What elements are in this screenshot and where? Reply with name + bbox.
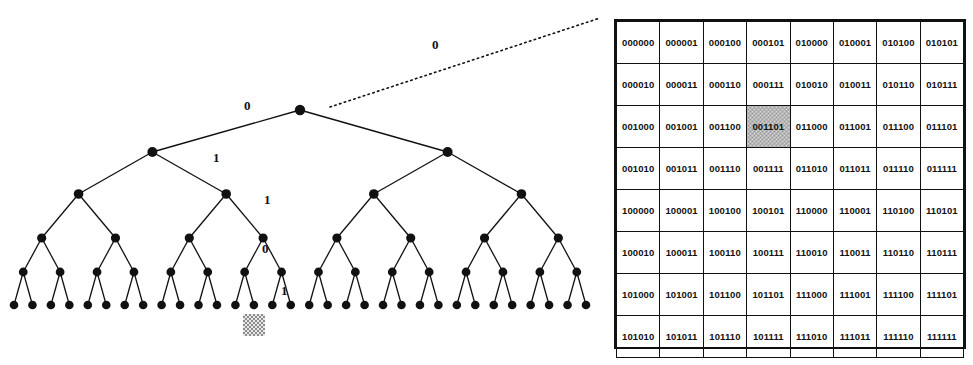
code-cell[interactable]: 001011 [660,148,703,190]
code-cell[interactable]: 101101 [747,274,790,316]
code-cell[interactable]: 011110 [877,148,920,190]
code-cell-highlighted[interactable]: 001101 [747,106,790,148]
tree-edge [485,238,503,272]
tree-internal-node [166,268,175,277]
tree-leaf-node [453,301,462,310]
code-cell[interactable]: 011011 [833,148,876,190]
tree-internal-node [369,189,379,199]
code-cell[interactable]: 101110 [703,316,746,358]
code-cell[interactable]: 111000 [790,274,833,316]
tree-edge [355,272,364,305]
code-cell[interactable]: 010010 [790,64,833,106]
tree-edge [457,272,466,305]
code-cell[interactable]: 000110 [703,64,746,106]
tree-edge [383,272,392,305]
code-cell[interactable]: 111110 [877,316,920,358]
code-cell[interactable]: 101001 [660,274,703,316]
tree-edge [134,272,143,305]
tree-internal-node [56,268,65,277]
code-cell[interactable]: 010001 [833,22,876,64]
code-cell[interactable]: 000000 [617,22,660,64]
code-cell[interactable]: 100111 [747,232,790,274]
code-cell[interactable]: 110010 [790,232,833,274]
tree-edge [374,194,411,238]
tree-edge [79,152,153,194]
code-cell[interactable]: 010011 [833,64,876,106]
code-cell[interactable]: 101011 [660,316,703,358]
code-cell[interactable]: 010110 [877,64,920,106]
code-cell[interactable]: 000100 [703,22,746,64]
tree-leaf-node [65,301,74,310]
code-cell[interactable]: 111100 [877,274,920,316]
code-cell[interactable]: 100000 [617,190,660,232]
code-cell[interactable]: 001110 [703,148,746,190]
tree-leaf-node [489,301,498,310]
code-cell[interactable]: 001111 [747,148,790,190]
code-cell[interactable]: 100101 [747,190,790,232]
tree-leaf-node [342,301,351,310]
code-cell[interactable]: 001001 [660,106,703,148]
tree-internal-node [221,189,231,199]
code-cell[interactable]: 000011 [660,64,703,106]
tree-edge [374,152,448,194]
tree-edge [540,272,549,305]
tree-edge [51,272,60,305]
tree-edge [337,238,355,272]
tree-internal-node [277,268,286,277]
code-cell[interactable]: 100110 [703,232,746,274]
tree-internal-node [314,268,323,277]
code-cell[interactable]: 101100 [703,274,746,316]
code-cell[interactable]: 100011 [660,232,703,274]
tree-edge [300,110,448,152]
tree-edge [171,272,180,305]
code-cell[interactable]: 110011 [833,232,876,274]
tree-node-group [10,105,591,310]
code-cell[interactable]: 000001 [660,22,703,64]
code-cell[interactable]: 010100 [877,22,920,64]
code-cell[interactable]: 111001 [833,274,876,316]
code-cell[interactable]: 110001 [833,190,876,232]
tree-leaf-node [360,301,369,310]
code-cell[interactable]: 000010 [617,64,660,106]
code-table-row: 0010100010110011100011110110100110110111… [617,148,964,190]
code-cell[interactable]: 010000 [790,22,833,64]
edge-label-bit-2: 1 [264,193,271,206]
code-cell[interactable]: 011101 [920,106,963,148]
code-cell[interactable]: 000111 [747,64,790,106]
code-table-row: 0000000000010001000001010100000100010101… [617,22,964,64]
code-cell[interactable]: 101111 [747,316,790,358]
code-cell[interactable]: 111010 [790,316,833,358]
code-cell[interactable]: 011111 [920,148,963,190]
code-cell[interactable]: 001010 [617,148,660,190]
tree-edge [23,272,32,305]
tree-leaf-node [120,301,129,310]
tree-edge [466,238,484,272]
code-cell[interactable]: 100100 [703,190,746,232]
code-cell[interactable]: 111111 [920,316,963,358]
code-cell[interactable]: 010101 [920,22,963,64]
code-cell[interactable]: 100010 [617,232,660,274]
code-cell[interactable]: 100001 [660,190,703,232]
code-cell[interactable]: 011001 [833,106,876,148]
tree-internal-node [332,233,341,242]
code-cell[interactable]: 101000 [617,274,660,316]
code-cell[interactable]: 011010 [790,148,833,190]
code-cell[interactable]: 110101 [920,190,963,232]
code-cell[interactable]: 000101 [747,22,790,64]
code-cell[interactable]: 110100 [877,190,920,232]
tree-edge [88,272,97,305]
code-cell[interactable]: 101010 [617,316,660,358]
tree-leaf-node [28,301,37,310]
code-cell[interactable]: 111011 [833,316,876,358]
code-cell[interactable]: 001000 [617,106,660,148]
code-cell[interactable]: 110111 [920,232,963,274]
tree-internal-node [19,268,28,277]
code-cell[interactable]: 001100 [703,106,746,148]
code-cell[interactable]: 010111 [920,64,963,106]
code-cell[interactable]: 011100 [877,106,920,148]
edge-label-bit-4: 1 [281,284,288,297]
code-cell[interactable]: 110110 [877,232,920,274]
code-cell[interactable]: 011000 [790,106,833,148]
code-cell[interactable]: 110000 [790,190,833,232]
code-cell[interactable]: 111101 [920,274,963,316]
